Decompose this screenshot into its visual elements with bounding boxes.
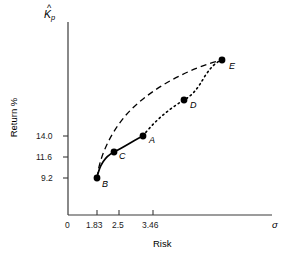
x-axis-symbol: σ [272,219,278,230]
data-point-A [140,133,147,140]
point-label-B: B [102,180,108,189]
x-tick-label-0: 0 [65,221,70,230]
point-label-A: A [149,136,155,145]
y-tick-label-14: 14.0 [36,132,53,141]
point-label-D: D [190,101,197,110]
y-axis-ticks [63,136,68,178]
point-label-C: C [119,152,126,161]
point-label-E: E [229,62,235,71]
y-tick-label-11-6: 11.6 [36,153,52,162]
chart-figure: ^Kp 14.0 11.6 9.2 0 1.83 2.5 3.46 σ B C … [0,0,291,258]
x-tick-label-2-5: 2.5 [112,221,124,230]
data-point-C [111,149,118,156]
x-axis-title: Risk [153,239,171,249]
hat-accent: ^ [47,3,51,13]
y-tick-label-9-2: 9.2 [41,174,53,183]
data-point-D [181,97,188,104]
x-tick-label-3-46: 3.46 [142,221,159,230]
y-axis-symbol: ^Kp [44,8,55,22]
x-axis-ticks [97,210,153,215]
data-point-E [219,57,226,64]
data-point-B [94,175,101,182]
x-tick-label-1-83: 1.83 [86,221,103,230]
y-axis-title: Return % [8,88,19,148]
